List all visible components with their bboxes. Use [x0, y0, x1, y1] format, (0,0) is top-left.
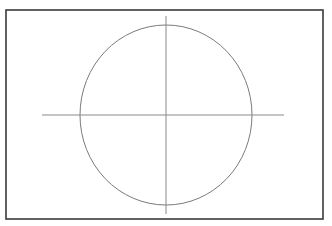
diagram-canvas	[0, 0, 332, 226]
